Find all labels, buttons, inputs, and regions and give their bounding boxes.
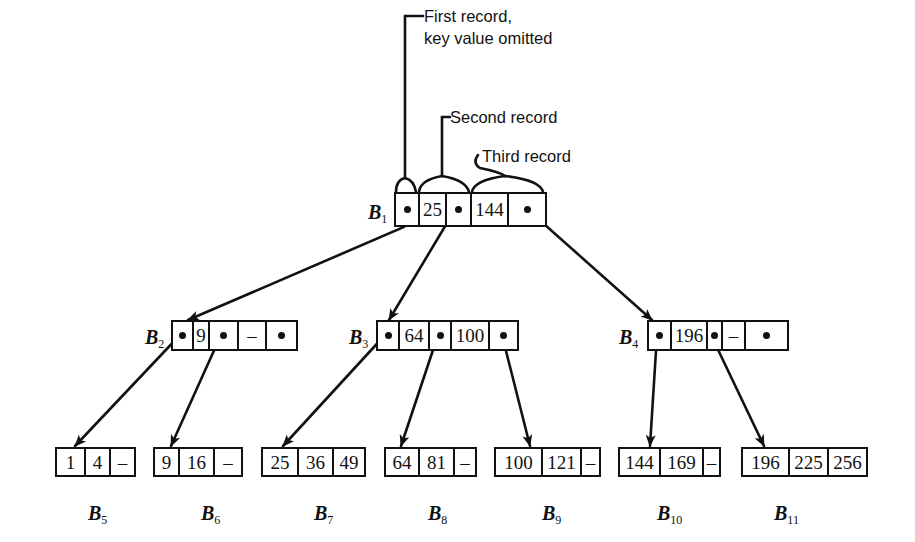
pointer-cell xyxy=(430,322,452,349)
key-cell: 81 xyxy=(420,449,455,475)
pointer-dot-icon xyxy=(220,332,227,339)
key-cell: 144 xyxy=(472,194,509,225)
node-b3: 64 100 xyxy=(376,320,519,351)
key-cell: 16 xyxy=(180,449,215,475)
key-cell: – xyxy=(215,449,241,475)
key-cell: 1 xyxy=(57,449,86,475)
node-b11: 196 225 256 xyxy=(741,447,868,477)
key-cell: 100 xyxy=(496,449,543,475)
pointer-dot-icon xyxy=(711,332,718,339)
key-cell: – xyxy=(111,449,134,475)
key-cell: 196 xyxy=(743,449,790,475)
node-label-b7: B7 xyxy=(314,503,333,526)
node-label-b3: B3 xyxy=(349,327,368,350)
node-b6: 9 16 – xyxy=(153,447,243,477)
key-cell: – xyxy=(723,322,746,349)
key-cell: 25 xyxy=(420,194,447,225)
key-cell: – xyxy=(239,322,267,349)
second-record-brace xyxy=(419,176,469,192)
pointer-dot-icon xyxy=(500,332,507,339)
key-cell: 144 xyxy=(620,449,661,475)
key-cell: 49 xyxy=(334,449,364,475)
edge-b2-b6 xyxy=(171,335,221,446)
node-b10: 144 169 – xyxy=(618,447,721,477)
key-cell: 121 xyxy=(543,449,582,475)
key-cell: 25 xyxy=(263,449,299,475)
edge-b3-b9 xyxy=(502,335,530,446)
pointer-dot-icon xyxy=(656,332,663,339)
pointer-dot-icon xyxy=(437,332,444,339)
node-label-b8: B8 xyxy=(428,503,447,526)
annotation-second-record: Second record xyxy=(450,106,557,128)
node-label-b10: B10 xyxy=(657,503,682,526)
node-b7: 25 36 49 xyxy=(261,447,366,477)
pointer-cell xyxy=(447,194,472,225)
key-cell: – xyxy=(582,449,599,475)
node-label-b6: B6 xyxy=(201,503,220,526)
node-label-b4: B4 xyxy=(619,327,638,350)
pointer-cell xyxy=(746,322,787,349)
pointer-cell xyxy=(649,322,672,349)
key-cell: 256 xyxy=(829,449,866,475)
pointer-dot-icon xyxy=(385,332,392,339)
edge-b2-b5 xyxy=(75,335,180,446)
node-label-b11: B11 xyxy=(774,503,799,526)
pointer-cell xyxy=(708,322,723,349)
edge-b3-b7 xyxy=(283,335,385,446)
pointer-dot-icon xyxy=(455,206,462,213)
node-b1: 25 144 xyxy=(394,192,547,227)
key-cell: 64 xyxy=(400,322,430,349)
key-cell: 4 xyxy=(86,449,111,475)
third-record-brace xyxy=(472,176,543,192)
node-label-b5: B5 xyxy=(88,503,107,526)
key-cell: 100 xyxy=(452,322,490,349)
key-cell: 9 xyxy=(194,322,210,349)
pointer-cell xyxy=(490,322,517,349)
annotation-third-record: Third record xyxy=(482,145,571,167)
node-label-b9: B9 xyxy=(542,503,561,526)
edge-b4-b11 xyxy=(711,335,764,446)
pointer-dot-icon xyxy=(763,332,770,339)
key-cell: – xyxy=(455,449,475,475)
edge-b4-b10 xyxy=(650,335,657,446)
node-b4: 196 – xyxy=(647,320,789,351)
annotation-first-record: First record, key value omitted xyxy=(424,5,552,49)
node-label-b1: B1 xyxy=(368,202,387,225)
node-b2: 9 – xyxy=(171,320,298,351)
pointer-cell xyxy=(396,194,420,225)
key-cell: 36 xyxy=(299,449,334,475)
pointer-cell xyxy=(210,322,239,349)
pointer-cell xyxy=(509,194,545,225)
pointer-dot-icon xyxy=(404,206,411,213)
node-b5: 1 4 – xyxy=(55,447,136,477)
key-cell: 9 xyxy=(155,449,180,475)
node-label-b2: B2 xyxy=(145,327,164,350)
pointer-dot-icon xyxy=(278,332,285,339)
pointer-dot-icon xyxy=(179,332,186,339)
key-cell: 169 xyxy=(661,449,704,475)
key-cell: 64 xyxy=(386,449,420,475)
key-cell: – xyxy=(704,449,719,475)
node-b9: 100 121 – xyxy=(494,447,601,477)
first-record-brace xyxy=(396,178,416,192)
pointer-cell xyxy=(173,322,194,349)
edge-b3-b8 xyxy=(401,335,438,446)
pointer-cell xyxy=(267,322,296,349)
key-cell: 196 xyxy=(672,322,708,349)
node-b8: 64 81 – xyxy=(384,447,477,477)
pointer-cell xyxy=(378,322,400,349)
pointer-dot-icon xyxy=(524,206,531,213)
key-cell: 225 xyxy=(790,449,829,475)
btree-diagram: First record, key value omitted Second r… xyxy=(0,0,915,542)
